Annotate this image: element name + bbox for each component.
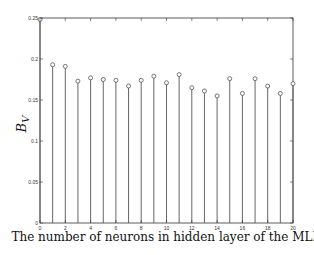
y-tick-label: 0.25 [28, 15, 38, 21]
y-tick-label: 0.15 [28, 97, 38, 103]
stem-marker [202, 89, 206, 93]
stem-marker [177, 73, 181, 77]
stem-marker [278, 91, 282, 95]
y-tick-label: 0.05 [28, 179, 38, 185]
stem-marker [152, 74, 156, 78]
stem-marker [63, 64, 67, 68]
stem-marker [165, 81, 169, 85]
stem-marker [266, 84, 270, 88]
stem-marker [291, 82, 295, 86]
stem-chart: 00.050.10.150.20.25 02468101214161820 Th… [0, 0, 314, 255]
stems [38, 18, 295, 223]
stem-marker [101, 78, 105, 82]
stem-marker [190, 86, 194, 90]
y-axis-label: BV [14, 114, 31, 134]
x-ticks: 02468101214161820 [39, 18, 296, 231]
y-ticks: 00.050.10.150.20.25 [28, 15, 293, 226]
stem-marker [76, 79, 80, 83]
stem-marker [127, 84, 131, 88]
stem-marker [139, 78, 143, 82]
stem-marker [114, 78, 118, 82]
y-tick-label: 0.2 [31, 56, 38, 62]
stem-marker [253, 77, 257, 81]
stem-marker [89, 76, 93, 80]
y-axis-label-main: B [14, 123, 29, 134]
stem-marker [51, 63, 55, 67]
y-axis-label-subscript: V [20, 114, 31, 123]
stem-marker [215, 94, 219, 98]
stem-marker [228, 77, 232, 81]
y-tick-label: 0.1 [31, 138, 38, 144]
x-axis-label: The number of neurons in hidden layer of… [11, 230, 314, 244]
stem-marker [240, 91, 244, 95]
